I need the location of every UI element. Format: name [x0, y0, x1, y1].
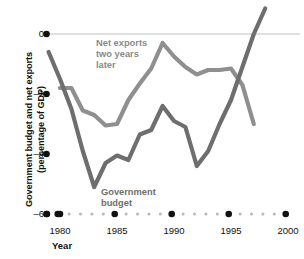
plot-area: [0, 0, 304, 259]
series-line-government-budget: [49, 9, 266, 188]
x-axis-minor-dots: [45, 213, 276, 216]
chart-container: Government budget and net exports (perce…: [0, 0, 304, 259]
